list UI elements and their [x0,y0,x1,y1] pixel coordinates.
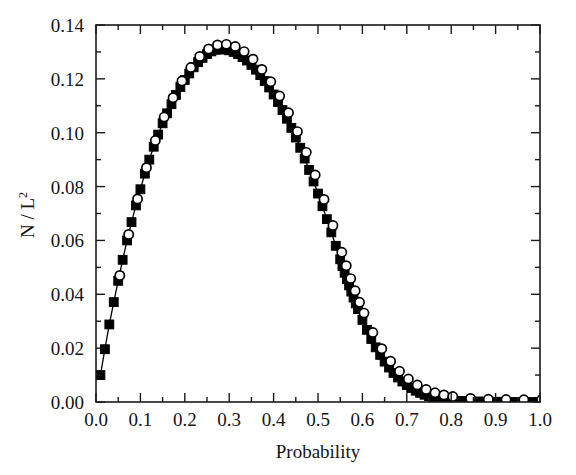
data-point [160,112,169,121]
data-point [355,298,364,307]
probability-distribution-chart: 0.00.10.20.30.40.50.60.70.80.91.00.000.0… [0,0,576,475]
x-tick-label: 1.0 [528,409,552,430]
data-point [328,221,337,230]
data-point [168,93,177,102]
data-point [346,274,355,283]
data-point [377,344,386,353]
data-point [275,91,284,100]
data-point [124,230,133,239]
y-tick-label: 0.12 [51,69,84,90]
x-tick-label: 0.6 [351,409,375,430]
data-point [136,185,145,194]
data-point [413,380,422,389]
data-point [186,63,195,72]
chart-background [0,0,576,475]
data-point [213,40,222,49]
data-point [342,261,351,270]
x-tick-label: 0.0 [84,409,108,430]
x-tick-label: 0.8 [439,409,463,430]
data-point [351,286,360,295]
data-point [368,328,377,337]
x-axis-title-text: Probability [276,441,361,462]
x-axis-title: Probability [276,441,361,462]
data-point [293,127,302,136]
data-point [195,52,204,61]
data-point [142,163,151,172]
x-tick-label: 0.4 [262,409,286,430]
data-point [133,194,142,203]
data-point [231,42,240,51]
chart-page: 0.00.10.20.30.40.50.60.70.80.91.00.000.0… [0,0,576,475]
data-point [115,271,124,280]
data-point [359,308,368,317]
y-tick-label: 0.02 [51,338,84,359]
data-point [100,345,109,354]
x-tick-label: 0.3 [217,409,241,430]
x-tick-label: 0.7 [395,409,419,430]
data-point [151,136,160,145]
data-point [404,374,413,383]
data-point [422,385,431,394]
y-tick-label: 0.14 [51,15,85,36]
x-tick-label: 0.2 [173,409,197,430]
data-point [448,392,457,401]
y-axis-title: N / L2 [16,192,38,238]
data-point [302,148,311,157]
data-point [319,195,328,204]
data-point [204,44,213,53]
data-point [177,76,186,85]
y-tick-label: 0.00 [51,392,84,413]
x-tick-label: 0.5 [306,409,330,430]
y-tick-label: 0.10 [51,123,84,144]
y-tick-label: 0.04 [51,284,85,305]
data-point [386,357,395,366]
data-point [222,40,231,49]
data-point [127,218,136,227]
data-point [257,65,266,74]
y-axis-title-exponent: 2 [16,192,30,198]
x-tick-label: 0.9 [484,409,508,430]
data-point [240,47,249,56]
y-axis-title-text: N / L2 [16,192,38,238]
data-point [430,388,439,397]
data-point [395,367,404,376]
data-point [266,77,275,86]
x-tick-label: 0.1 [129,409,153,430]
y-axis-title-base: N / L [17,198,38,238]
data-point [105,320,114,329]
data-point [337,248,346,257]
data-point [439,390,448,399]
y-tick-label: 0.06 [51,230,84,251]
data-point [284,108,293,117]
data-point [248,55,257,64]
y-tick-label: 0.08 [51,177,84,198]
data-point [311,170,320,179]
data-point [118,255,127,264]
data-point [109,298,118,307]
